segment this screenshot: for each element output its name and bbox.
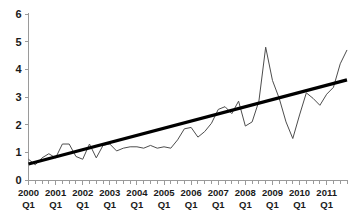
x-axis-tick-label-year: 2010 [289, 187, 310, 198]
x-axis-tick-label-year: 2008 [235, 187, 256, 198]
x-axis-tick-label-year: 2006 [181, 187, 202, 198]
x-axis-tick-label-quarter: Q1 [49, 199, 62, 210]
data-series-line [29, 47, 348, 165]
x-axis-tick-label-quarter: Q1 [76, 199, 89, 210]
x-axis-tick-label-quarter: Q1 [293, 199, 306, 210]
x-axis-tick-label-quarter: Q1 [22, 199, 35, 210]
x-axis-tick-label-year: 2007 [208, 187, 229, 198]
x-axis-tick-label-year: 2003 [99, 187, 120, 198]
trend-line [29, 80, 348, 164]
x-axis-tick-label-quarter: Q1 [158, 199, 171, 210]
x-axis-tick-label-year: 2002 [72, 187, 93, 198]
x-axis-tick-label-year: 2011 [316, 187, 337, 198]
x-axis-tick-label-quarter: Q1 [103, 199, 116, 210]
x-axis-tick-label-year: 2004 [126, 187, 148, 198]
y-axis-tick-label: 5 [15, 36, 21, 48]
x-axis-tick-label-year: 2000 [18, 187, 39, 198]
x-axis-tick-label-year: 2005 [153, 187, 175, 198]
line-chart: 01234562000Q12001Q12002Q12003Q12004Q1200… [0, 0, 350, 219]
y-axis-tick-label: 2 [15, 119, 21, 131]
chart-canvas: 01234562000Q12001Q12002Q12003Q12004Q1200… [0, 0, 350, 219]
x-axis-tick-label-quarter: Q1 [239, 199, 252, 210]
y-axis-tick-label: 6 [15, 8, 21, 20]
x-axis-tick-label-quarter: Q1 [131, 199, 144, 210]
x-axis-tick-label-quarter: Q1 [266, 199, 279, 210]
y-axis-tick-label: 1 [15, 146, 21, 158]
x-axis-tick-label-year: 2001 [45, 187, 67, 198]
y-axis-tick-label: 0 [15, 174, 21, 186]
y-axis-tick-label: 3 [15, 91, 21, 103]
x-axis-tick-label-quarter: Q1 [320, 199, 333, 210]
x-axis-tick-label-quarter: Q1 [212, 199, 225, 210]
x-axis-tick-label-year: 2009 [262, 187, 283, 198]
x-axis-tick-label-quarter: Q1 [185, 199, 198, 210]
y-axis-tick-label: 4 [15, 63, 22, 75]
